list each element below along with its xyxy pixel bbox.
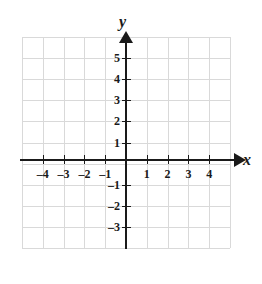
x-axis-tick — [188, 155, 189, 164]
x-axis-tick — [147, 155, 148, 164]
y-axis-tick — [122, 143, 131, 144]
x-axis-tick — [84, 155, 85, 164]
y-axis-tick — [122, 58, 131, 59]
x-axis-label: x — [243, 152, 251, 168]
x-axis-tick — [43, 155, 44, 164]
grid-line-vertical — [230, 37, 231, 248]
coordinate-plane-figure: –4–3–2–1123454321–1–2–3 x y — [0, 0, 262, 284]
y-axis-tick-label: 5 — [114, 52, 120, 64]
x-axis-tick-label: 2 — [165, 168, 171, 180]
x-axis-line — [20, 159, 236, 161]
y-axis-tick-label: –2 — [108, 200, 120, 212]
y-axis-tick-label: 3 — [114, 94, 120, 106]
x-axis-tick — [105, 155, 106, 164]
x-axis-tick-label: –3 — [58, 168, 70, 180]
y-axis-tick-label: 4 — [114, 73, 120, 85]
y-axis-tick — [122, 121, 131, 122]
y-axis-tick — [122, 206, 131, 207]
x-axis-tick — [64, 155, 65, 164]
y-axis-label: y — [119, 14, 126, 30]
y-axis-tick-label: –3 — [108, 221, 120, 233]
y-axis-tick — [122, 79, 131, 80]
x-axis-tick-label: –4 — [37, 168, 49, 180]
x-axis-tick-label: 4 — [206, 168, 212, 180]
y-axis-arrowhead-icon — [119, 31, 133, 43]
y-axis-tick-label: –1 — [108, 179, 120, 191]
y-axis-tick — [122, 100, 131, 101]
x-axis-tick-label: –2 — [78, 168, 90, 180]
y-axis-tick — [122, 227, 131, 228]
y-axis-tick-label: 1 — [114, 137, 120, 149]
y-axis-tick-label: 2 — [114, 115, 120, 127]
x-axis-tick — [168, 155, 169, 164]
y-axis-tick — [122, 185, 131, 186]
x-axis-tick — [209, 155, 210, 164]
x-axis-tick-label: 1 — [144, 168, 150, 180]
x-axis-tick-label: 3 — [185, 168, 191, 180]
y-axis-line — [125, 42, 127, 249]
